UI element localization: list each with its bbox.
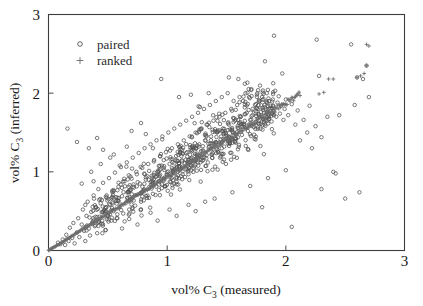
- data-point-paired: [153, 171, 157, 175]
- data-point-paired: [296, 109, 300, 113]
- data-point-paired: [305, 131, 309, 135]
- data-point-paired: [131, 185, 135, 189]
- data-point-paired: [221, 113, 225, 117]
- data-point-paired: [166, 189, 170, 193]
- data-point-paired: [201, 144, 205, 148]
- data-point-paired: [175, 214, 179, 218]
- data-point-paired: [284, 169, 288, 173]
- data-point-paired: [290, 225, 294, 229]
- data-point-ranked: [322, 90, 326, 94]
- data-point-paired: [130, 129, 134, 133]
- y-tick-label: 0: [33, 243, 41, 259]
- data-point-paired: [122, 212, 126, 216]
- data-point-paired: [116, 213, 120, 217]
- data-point-paired: [283, 107, 287, 111]
- data-point-paired: [242, 95, 246, 99]
- data-point-paired: [127, 217, 131, 221]
- data-point-paired: [241, 99, 245, 103]
- x-tick-label: 3: [401, 253, 409, 269]
- data-point-paired: [149, 143, 153, 147]
- data-point-paired: [260, 205, 264, 209]
- data-point-paired: [272, 132, 276, 136]
- data-point-paired: [211, 168, 215, 172]
- data-point-paired: [298, 139, 302, 143]
- data-point-paired: [239, 115, 243, 119]
- data-point-paired: [155, 139, 159, 143]
- data-point-paired: [107, 202, 111, 206]
- y-tick-label: 3: [33, 7, 41, 23]
- data-point-paired: [84, 239, 88, 243]
- data-point-paired: [206, 161, 210, 165]
- data-point-paired: [183, 175, 187, 179]
- data-point-paired: [216, 168, 220, 172]
- data-point-paired: [160, 186, 164, 190]
- data-point-paired: [113, 219, 117, 223]
- data-point-ranked: [331, 77, 335, 81]
- data-point-paired: [209, 135, 213, 139]
- data-point-paired: [193, 121, 197, 125]
- data-point-paired: [99, 162, 103, 166]
- data-point-paired: [213, 197, 217, 201]
- data-point-ranked: [317, 92, 321, 96]
- data-point-paired: [168, 208, 172, 212]
- data-point-paired: [122, 190, 126, 194]
- data-point-paired: [97, 187, 101, 191]
- data-point-paired: [148, 206, 152, 210]
- data-point-paired: [218, 122, 222, 126]
- data-point-paired: [270, 127, 274, 131]
- data-point-paired: [320, 187, 324, 191]
- data-point-paired: [178, 188, 182, 192]
- data-point-paired: [95, 231, 99, 235]
- data-point-paired: [139, 121, 143, 125]
- data-point-paired: [282, 118, 286, 122]
- data-point-paired: [195, 169, 199, 173]
- data-point-paired: [207, 91, 211, 95]
- chart-canvas: 0123 0123 vol% C3 (measured) vol% C3 (in…: [0, 0, 423, 306]
- data-point-paired: [113, 171, 117, 175]
- data-point-paired: [286, 113, 290, 117]
- data-point-paired: [263, 60, 267, 64]
- data-point-paired: [184, 119, 188, 123]
- data-point-paired: [130, 167, 134, 171]
- data-point-paired: [222, 118, 226, 122]
- data-point-paired: [159, 77, 163, 81]
- data-point-paired: [213, 165, 217, 169]
- data-point-paired: [216, 119, 220, 123]
- data-point-paired: [149, 211, 153, 215]
- data-point-paired: [178, 123, 182, 127]
- data-point-paired: [89, 170, 93, 174]
- data-point-paired: [135, 173, 139, 177]
- data-point-paired: [199, 168, 203, 172]
- data-point-paired: [271, 82, 275, 86]
- data-point-paired: [227, 76, 231, 80]
- data-point-paired: [88, 234, 92, 238]
- data-point-paired: [194, 209, 198, 213]
- data-point-paired: [190, 115, 194, 119]
- data-point-paired: [128, 212, 132, 216]
- data-point-paired: [131, 156, 135, 160]
- data-point-paired: [278, 112, 282, 116]
- data-point-paired: [244, 138, 248, 142]
- data-point-paired: [220, 95, 224, 99]
- data-point-paired: [81, 208, 85, 212]
- x-tick-label: 2: [282, 253, 290, 269]
- data-point-paired: [320, 135, 324, 139]
- data-point-paired: [211, 114, 215, 118]
- data-point-paired: [144, 132, 148, 136]
- data-point-paired: [226, 128, 230, 132]
- data-point-paired: [266, 88, 270, 92]
- data-point-paired: [66, 127, 70, 131]
- data-point-paired: [101, 148, 105, 152]
- data-point-paired: [136, 223, 140, 227]
- data-point-paired: [250, 115, 254, 119]
- data-point-paired: [177, 95, 181, 99]
- y-axis-title-main: vol% C: [7, 142, 22, 183]
- data-point-paired: [123, 185, 127, 189]
- x-tick-label: 0: [45, 253, 53, 269]
- y-axis-tick-labels: 0123: [33, 7, 41, 259]
- data-point-paired: [266, 176, 270, 180]
- series-ranked-points: [47, 42, 371, 252]
- data-point-paired: [65, 233, 69, 237]
- data-point-paired: [314, 124, 318, 128]
- data-point-paired: [80, 182, 84, 186]
